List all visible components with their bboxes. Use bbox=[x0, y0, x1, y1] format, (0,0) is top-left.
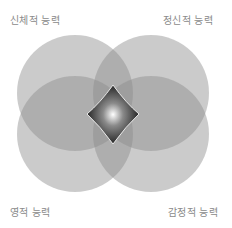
label-spiritual: 영적 능력 bbox=[10, 204, 51, 219]
label-mental: 정신적 능력 bbox=[163, 12, 213, 27]
venn-diagram bbox=[0, 0, 232, 228]
label-physical: 신체적 능력 bbox=[10, 12, 60, 27]
label-emotional: 감정적 능력 bbox=[168, 204, 218, 219]
